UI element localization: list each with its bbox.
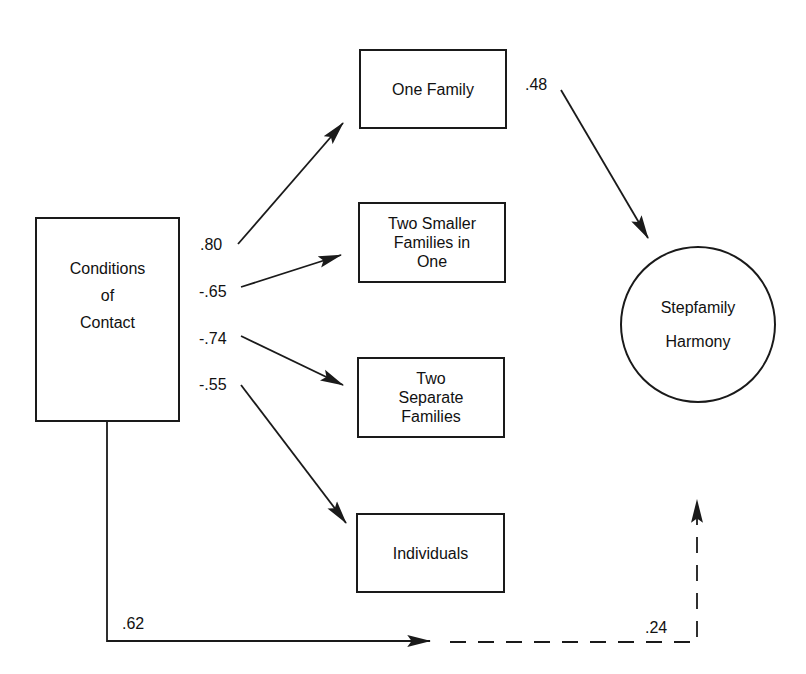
node-label-line: Individuals — [393, 544, 469, 563]
node-label-line: Conditions — [70, 255, 146, 282]
node-label-line: Contact — [80, 309, 135, 336]
node-label-line: Two Smaller — [388, 214, 476, 233]
coefficient-label-two-smaller: -.65 — [199, 283, 227, 301]
node-conditions-of-contact: Conditions of Contact — [35, 217, 180, 422]
coefficient-label-direct-effect: .24 — [645, 619, 667, 637]
edge-one-family-harmony — [561, 90, 648, 238]
edge-conditions-individuals — [241, 385, 346, 523]
node-label-line: Families in — [394, 233, 470, 252]
coefficient-label-one-family-harmony: .48 — [525, 76, 547, 94]
node-individuals: Individuals — [356, 513, 505, 593]
node-stepfamily-harmony: Stepfamily Harmony — [620, 246, 776, 403]
edge-conditions-two-smaller — [241, 255, 341, 287]
node-label-line: Families — [401, 407, 461, 426]
node-one-family: One Family — [359, 49, 507, 129]
coefficient-label-individuals: -.55 — [199, 376, 227, 394]
edge-conditions-one-family — [238, 123, 343, 244]
coefficient-label-two-separate: -.74 — [199, 330, 227, 348]
node-label-line: Harmony — [666, 325, 731, 359]
node-label-line: Two — [416, 369, 445, 388]
coefficient-label-one-family: .80 — [200, 236, 222, 254]
node-label-line: of — [101, 282, 114, 309]
node-label-line: One — [417, 252, 447, 271]
node-label-line: Separate — [399, 388, 464, 407]
edge-conditions-two-separate — [241, 336, 343, 385]
node-two-separate-families: Two Separate Families — [357, 357, 505, 438]
node-label-line: One Family — [392, 80, 474, 99]
path-diagram: Conditions of Contact One Family Two Sma… — [0, 0, 806, 674]
node-two-smaller-families: Two Smaller Families in One — [358, 202, 506, 283]
node-label-line: Stepfamily — [661, 291, 736, 325]
coefficient-label-total-effect: .62 — [122, 615, 144, 633]
